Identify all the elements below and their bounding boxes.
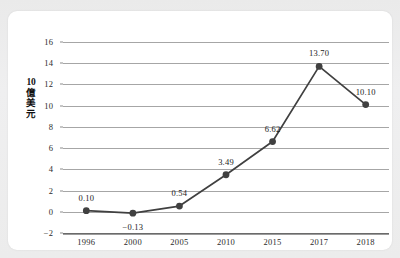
data-point-2005 <box>176 203 183 210</box>
y-tick-label--2: −2 <box>8 228 58 238</box>
x-tick-label-2000: 2000 <box>124 237 142 247</box>
x-tick-label-2010: 2010 <box>217 237 235 247</box>
series-line-chart <box>63 42 389 233</box>
data-label-1996: 0.10 <box>78 193 94 203</box>
data-point-2010 <box>223 171 230 178</box>
data-label-2017: 13.70 <box>309 48 329 58</box>
y-tick-label-6: 6 <box>8 143 58 153</box>
x-tick-label-1996: 1996 <box>77 237 95 247</box>
data-point-2018 <box>362 101 369 108</box>
y-tick-label-12: 12 <box>8 79 58 89</box>
data-label-2015: 6.62 <box>265 124 281 134</box>
data-label-2005: 0.54 <box>172 188 188 198</box>
chart-page: 10 億 美 元 1614121086420−2 0.10−0.130.543.… <box>0 0 400 258</box>
data-label-2010: 3.49 <box>218 157 234 167</box>
plot-area: 0.10−0.130.543.496.6213.7010.10 <box>63 42 389 233</box>
y-tick-label-0: 0 <box>8 207 58 217</box>
data-point-2017 <box>316 63 323 70</box>
y-tick-label-4: 4 <box>8 164 58 174</box>
gridline--2 <box>63 233 389 234</box>
x-tick-label-2005: 2005 <box>170 237 188 247</box>
x-tick-label-2018: 2018 <box>357 237 375 247</box>
chart-card: 10 億 美 元 1614121086420−2 0.10−0.130.543.… <box>8 11 392 250</box>
y-tick-label-10: 10 <box>8 101 58 111</box>
x-tick-label-2015: 2015 <box>263 237 281 247</box>
y-tick-label-14: 14 <box>8 58 58 68</box>
data-point-2015 <box>269 138 276 145</box>
series-polyline <box>86 66 365 213</box>
y-tick-label-16: 16 <box>8 37 58 47</box>
y-axis-ticks: 1614121086420−2 <box>8 42 58 233</box>
data-point-1996 <box>83 207 90 214</box>
y-tick-label-8: 8 <box>8 122 58 132</box>
x-axis-ticks: 1996200020052010201520172018 <box>63 237 389 251</box>
x-tick-label-2017: 2017 <box>310 237 328 247</box>
data-label-2018: 10.10 <box>356 87 376 97</box>
y-tick-label-2: 2 <box>8 186 58 196</box>
data-label-2000: −0.13 <box>123 222 144 232</box>
series-markers <box>83 63 369 217</box>
data-point-2000 <box>129 210 136 217</box>
